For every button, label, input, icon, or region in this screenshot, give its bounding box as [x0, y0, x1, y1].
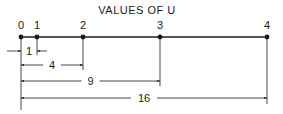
dimension-1: 1 [7, 45, 47, 57]
point-label: 4 [264, 19, 270, 31]
point-label: 1 [34, 19, 40, 31]
dimensions-layer: 14916 [7, 37, 267, 110]
point-label: 0 [18, 19, 24, 31]
dimension-9: 9 [21, 75, 160, 87]
values-of-u-diagram: VALUES OF U 01234 14916 [0, 0, 283, 114]
diagram-title: VALUES OF U [98, 4, 175, 16]
dimension-label: 16 [138, 92, 150, 104]
dimension-label: 9 [87, 75, 93, 87]
point-label: 2 [80, 19, 86, 31]
point-label: 3 [157, 19, 163, 31]
dimension-4: 4 [21, 59, 83, 71]
dimension-label: 4 [49, 59, 55, 71]
dimension-label: 1 [26, 45, 32, 57]
dimension-16: 16 [21, 92, 267, 104]
